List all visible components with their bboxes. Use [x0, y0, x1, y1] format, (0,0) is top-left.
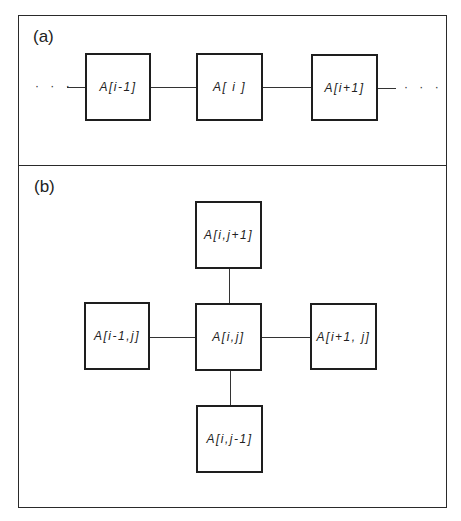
node-a-i-minus-1: A[i-1]: [85, 53, 151, 121]
node-label: A[i,j]: [212, 330, 244, 344]
node-label: A[i-1]: [99, 80, 136, 94]
node-b-left: A[i-1,j]: [84, 302, 150, 370]
edge-left-to-center: [150, 337, 195, 338]
edge-left-ellipsis-to-a-im1: [67, 87, 85, 88]
node-b-right: A[i+1, j]: [310, 303, 377, 370]
node-b-top: A[i,j+1]: [195, 201, 262, 269]
edge-a-im1-to-a-i: [151, 87, 196, 88]
node-label: A[i,j+1]: [204, 228, 253, 242]
node-label: A[i+1, j]: [317, 330, 371, 344]
node-label: A[ i ]: [213, 80, 246, 94]
node-label: A[i,j-1]: [206, 432, 252, 446]
node-label: A[i-1,j]: [94, 329, 140, 343]
edge-top-to-center: [229, 269, 230, 303]
edge-a-ip1-to-right-ellipsis: [378, 88, 396, 89]
panel-b-label: (b): [34, 177, 55, 197]
edge-center-to-bottom: [230, 371, 231, 405]
edge-center-to-right: [262, 337, 310, 338]
node-a-i-plus-1: A[i+1]: [311, 54, 378, 121]
left-ellipsis: · · ·: [35, 79, 74, 93]
panel-a-label: (a): [33, 27, 54, 47]
node-b-center: A[i,j]: [195, 303, 262, 371]
node-a-i: A[ i ]: [196, 53, 263, 121]
node-label: A[i+1]: [324, 81, 364, 95]
node-b-bottom: A[i,j-1]: [196, 405, 263, 473]
edge-a-i-to-a-ip1: [263, 87, 311, 88]
right-ellipsis: · · ·: [404, 80, 443, 94]
